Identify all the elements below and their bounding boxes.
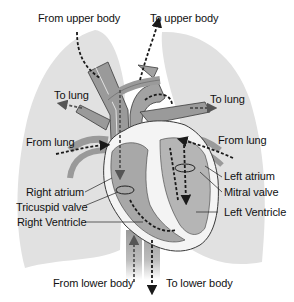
label-left-ventricle: Left Ventricle <box>224 206 286 218</box>
label-mitral-valve: Mitral valve <box>224 186 278 198</box>
label-to-lung-right: To lung <box>210 93 245 105</box>
heart-circulation-diagram <box>0 0 294 302</box>
label-from-lung-right: From lung <box>218 134 267 146</box>
label-to-upper-body: To upper body <box>150 12 218 24</box>
label-right-atrium: Right atrium <box>26 186 84 198</box>
label-left-atrium: Left atrium <box>224 170 275 182</box>
label-from-lower-body: From lower body <box>53 277 133 289</box>
label-to-lower-body: To lower body <box>166 277 233 289</box>
label-to-lung-left: To lung <box>54 89 89 101</box>
label-tricuspid-valve: Tricuspid valve <box>16 201 87 213</box>
label-right-ventricle: Right Ventricle <box>17 216 86 228</box>
label-from-lung-left: From lung <box>26 136 75 148</box>
label-from-upper-body: From upper body <box>38 12 120 24</box>
